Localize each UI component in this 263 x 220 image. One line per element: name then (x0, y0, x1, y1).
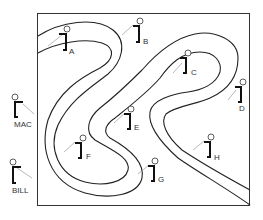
diagram-canvas (0, 0, 263, 220)
label-G: G (158, 176, 164, 184)
figure-icon (15, 102, 23, 117)
head-icon (152, 158, 158, 164)
figure-icon (75, 143, 81, 158)
observer-F (75, 135, 86, 158)
head-icon (10, 159, 16, 165)
label-H: H (214, 154, 220, 162)
label-A: A (69, 48, 74, 56)
head-icon (64, 26, 70, 32)
observer-H (204, 134, 214, 157)
head-icon (12, 94, 18, 100)
label-E: E (134, 124, 139, 132)
label-B: B (143, 38, 148, 46)
figure-icon (235, 87, 241, 102)
observer-D (235, 79, 246, 102)
head-icon (80, 135, 86, 141)
label-F: F (86, 153, 91, 161)
head-icon (137, 18, 143, 24)
label-C: C (191, 69, 197, 77)
head-icon (208, 134, 214, 140)
figure-icon (148, 166, 154, 181)
observer-G (148, 158, 158, 181)
label-BILL: BILL (12, 187, 28, 195)
band-curve-inner (38, 41, 250, 205)
label-MAC: MAC (14, 121, 32, 129)
observer-C (180, 50, 191, 73)
label-D: D (239, 105, 245, 113)
figure-icon (133, 26, 139, 42)
head-icon (185, 50, 191, 56)
figure-icon (204, 142, 210, 157)
figure-icon (180, 58, 186, 73)
observer-MAC (12, 94, 23, 117)
figure-icon (13, 167, 21, 183)
head-icon (240, 79, 246, 85)
head-icon (128, 106, 134, 112)
figure-icon (124, 114, 130, 129)
observer-BILL (10, 159, 21, 183)
observer-B (133, 18, 143, 42)
